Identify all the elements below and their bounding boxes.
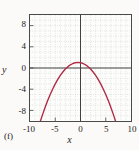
parabola-curve <box>30 15 131 121</box>
panel-label: (f) <box>4 131 13 141</box>
x-tick-label: 0 <box>70 125 92 134</box>
x-tick-label: -10 <box>18 125 40 134</box>
y-tick-label: 8 <box>4 20 26 29</box>
y-tick-label: -4 <box>4 85 26 94</box>
y-tick-label: -8 <box>4 107 26 116</box>
series-parabola <box>40 62 118 121</box>
y-tick-label: 4 <box>4 42 26 51</box>
plot-area <box>29 14 132 122</box>
x-tick-label: 5 <box>95 125 117 134</box>
figure-panel-f: 840-4-8 -10-50510 y x (f) <box>0 0 139 150</box>
y-tick-label: 0 <box>4 64 26 73</box>
x-axis-title: x <box>0 134 139 145</box>
x-tick-label: -5 <box>44 125 66 134</box>
y-axis-title: y <box>2 64 6 75</box>
x-tick-label: 10 <box>121 125 139 134</box>
